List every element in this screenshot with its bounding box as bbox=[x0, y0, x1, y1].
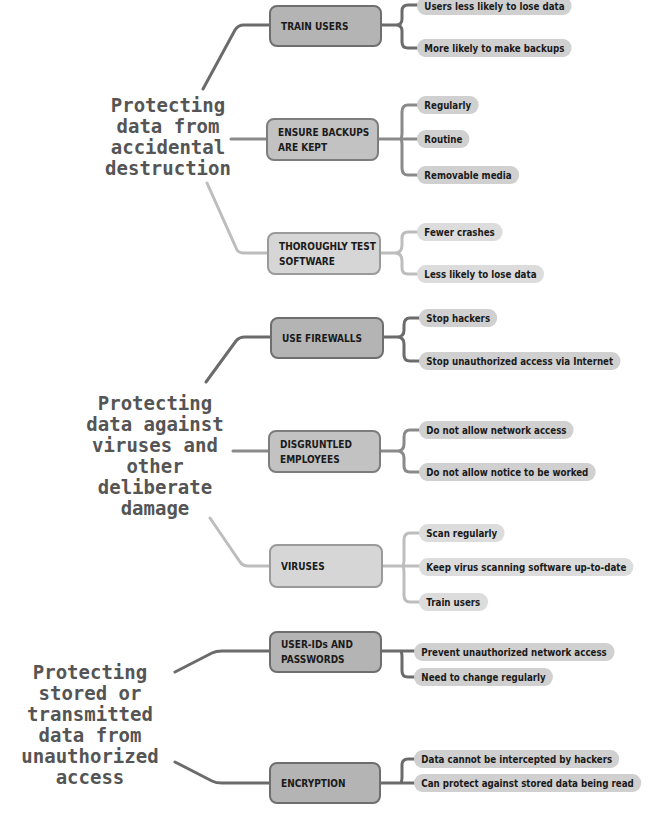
leaf-item: Train users bbox=[419, 593, 488, 611]
branch-use-firewalls[interactable]: USE FIREWALLS bbox=[270, 317, 384, 359]
group-title-accidental-destruction: Protecting data from accidental destruct… bbox=[92, 95, 244, 179]
leaf-item: Less likely to lose data bbox=[417, 265, 544, 283]
leaf-item: Do not allow network access bbox=[419, 421, 574, 439]
leaf-item: Routine bbox=[417, 130, 470, 148]
leaf-item: Stop hackers bbox=[419, 309, 497, 327]
leaf-item: Do not allow notice to be worked bbox=[419, 463, 596, 481]
group-title-deliberate-damage: Protecting data against viruses and othe… bbox=[70, 393, 240, 519]
leaf-item: Data cannot be intercepted by hackers bbox=[414, 750, 620, 768]
leaf-item: Removable media bbox=[417, 166, 519, 184]
leaf-item: Stop unauthorized access via Internet bbox=[419, 352, 621, 370]
leaf-item: Scan regularly bbox=[419, 524, 505, 542]
leaf-item: Regularly bbox=[417, 96, 478, 114]
leaf-item: Users less likely to lose data bbox=[417, 0, 572, 15]
leaf-item: Keep virus scanning software up-to-date bbox=[419, 558, 634, 576]
branch-encryption[interactable]: ENCRYPTION bbox=[269, 762, 381, 804]
branch-train-users[interactable]: TRAIN USERS bbox=[269, 5, 382, 47]
branch-ensure-backups[interactable]: ENSURE BACKUPS ARE KEPT bbox=[266, 118, 379, 161]
branch-user-ids-passwords[interactable]: USER-IDs AND PASSWORDS bbox=[269, 631, 382, 673]
branch-disgruntled-employees[interactable]: DISGRUNTLED EMPLOYEES bbox=[268, 430, 381, 473]
branch-test-software[interactable]: THOROUGHLY TEST SOFTWARE bbox=[267, 232, 381, 275]
leaf-item: Can protect against stored data being re… bbox=[414, 774, 641, 792]
leaf-item: More likely to make backups bbox=[417, 39, 572, 57]
leaf-item: Fewer crashes bbox=[417, 223, 502, 241]
leaf-item: Prevent unauthorized network access bbox=[414, 643, 614, 661]
group-title-unauthorized-access: Protecting stored or transmitted data fr… bbox=[10, 662, 170, 788]
leaf-item: Need to change regularly bbox=[414, 668, 553, 686]
branch-viruses[interactable]: VIRUSES bbox=[269, 544, 383, 588]
